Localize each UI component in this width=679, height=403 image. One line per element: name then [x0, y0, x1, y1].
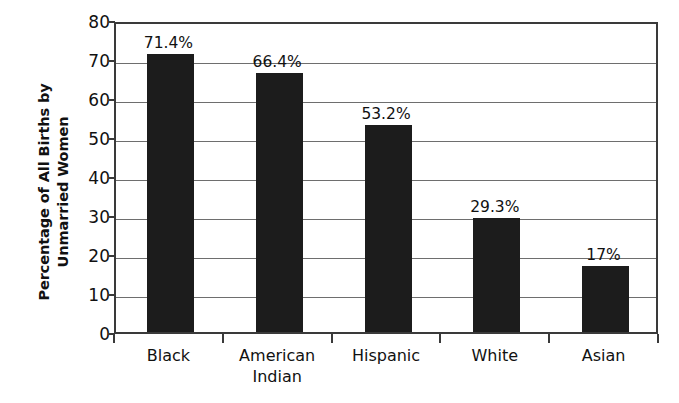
- bar-value-label: 29.3%: [445, 200, 545, 216]
- x-axis-tick-label: AmericanIndian: [217, 345, 337, 387]
- y-axis-tick-label: 70: [66, 53, 110, 70]
- x-axis-tick-label-line: Hispanic: [326, 345, 446, 366]
- y-axis-tick-label: 50: [66, 131, 110, 148]
- y-axis-tick-label: 60: [66, 92, 110, 109]
- y-axis-tick-mark: [108, 60, 115, 62]
- bar-value-label: 17%: [554, 248, 654, 264]
- bar-value-label: 53.2%: [336, 107, 436, 123]
- bar[interactable]: [582, 266, 629, 332]
- plot-area: [114, 22, 658, 334]
- x-axis-tick-label-line: Asian: [544, 345, 664, 366]
- x-axis-tick-mark: [113, 334, 115, 343]
- y-axis-title-line-1: Percentage of All Births by: [35, 83, 54, 300]
- y-axis-tick-label: 40: [66, 170, 110, 187]
- bar-value-label: 71.4%: [118, 36, 218, 52]
- bar-chart: Percentage of All Births by Unmarried Wo…: [0, 0, 679, 403]
- x-axis-tick-mark: [331, 334, 333, 343]
- x-axis-tick-mark: [222, 334, 224, 343]
- x-axis-tick-label-line: White: [435, 345, 555, 366]
- x-axis-tick-mark: [548, 334, 550, 343]
- y-axis-tick-mark: [108, 177, 115, 179]
- y-axis-tick-mark: [108, 216, 115, 218]
- y-axis-tick-mark: [108, 255, 115, 257]
- gridline: [116, 63, 656, 64]
- x-axis-tick-label: Asian: [544, 345, 664, 366]
- y-axis-tick-mark: [108, 138, 115, 140]
- y-axis-tick-mark: [108, 99, 115, 101]
- bar[interactable]: [256, 73, 303, 332]
- y-axis-tick-mark: [108, 333, 115, 335]
- y-axis-tick-mark: [108, 294, 115, 296]
- x-axis-tick-label: Hispanic: [326, 345, 446, 366]
- y-axis-tick-labels: 01020304050607080: [60, 22, 110, 334]
- gridline: [116, 102, 656, 103]
- x-axis-tick-label-line: Black: [108, 345, 228, 366]
- y-axis-tick-label: 0: [66, 326, 110, 343]
- bar[interactable]: [147, 54, 194, 332]
- x-axis-tick-label-line: American: [217, 345, 337, 366]
- bar[interactable]: [473, 218, 520, 332]
- y-axis-tick-label: 20: [66, 248, 110, 265]
- x-axis-tick-mark: [439, 334, 441, 343]
- y-axis-tick-label: 10: [66, 287, 110, 304]
- x-axis-tick-label-line: Indian: [217, 366, 337, 387]
- x-axis-tick-label: White: [435, 345, 555, 366]
- y-axis-tick-label: 80: [66, 14, 110, 31]
- y-axis-tick-mark: [108, 21, 115, 23]
- y-axis-tick-label: 30: [66, 209, 110, 226]
- x-axis-tick-mark: [657, 334, 659, 343]
- bar[interactable]: [365, 125, 412, 332]
- bar-value-label: 66.4%: [227, 55, 327, 71]
- x-axis-tick-label: Black: [108, 345, 228, 366]
